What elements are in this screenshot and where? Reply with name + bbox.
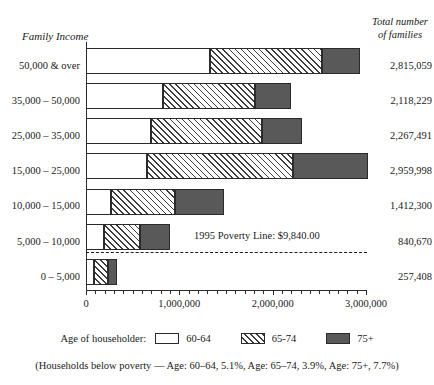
category-label: 15,000 – 25,000 — [0, 165, 80, 176]
poverty-line — [86, 252, 367, 253]
white-box-swatch-icon — [155, 333, 179, 344]
total-value-label: 840,670 — [368, 236, 432, 247]
plot-area: 1995 Poverty Line: $9,840.00 01,000,0002… — [86, 42, 366, 290]
bar-segment-60-64 — [86, 189, 111, 215]
axis-tick-minor — [329, 290, 330, 294]
bar-segment-65-74 — [163, 83, 255, 109]
bar-segment-65-74 — [151, 118, 262, 144]
axis-tick-minor — [301, 290, 302, 294]
axis-tick-minor — [170, 290, 171, 294]
axis-tick-minor — [105, 290, 106, 294]
legend-item-75-plus[interactable]: 75+ — [326, 333, 373, 344]
bar-segment-75plus — [293, 153, 368, 179]
legend-item-60-64[interactable]: 60-64 — [155, 333, 211, 344]
total-column-title: Total number of families — [366, 16, 434, 41]
axis-tick-minor — [319, 290, 320, 294]
bar-row — [86, 189, 218, 215]
axis-tick-major — [273, 290, 274, 295]
axis-tick-minor — [347, 290, 348, 294]
bar-segment-60-64 — [86, 153, 147, 179]
category-label: 25,000 – 35,000 — [0, 130, 80, 141]
legend: Age of householder: 60-64 65-74 75+ — [0, 330, 434, 346]
bar-row — [86, 83, 284, 109]
total-value-label: 1,412,300 — [368, 200, 432, 211]
stacked-bar-chart: Family Income Total number of families 5… — [0, 0, 434, 385]
category-label: 10,000 – 15,000 — [0, 200, 80, 211]
category-label: 35,000 – 50,000 — [0, 95, 80, 106]
legend-item-65-74[interactable]: 65-74 — [241, 333, 297, 344]
total-value-label: 2,959,998 — [368, 165, 432, 176]
axis-tick-minor — [245, 290, 246, 294]
total-value-label: 2,815,059 — [368, 60, 432, 71]
axis-tick-minor — [207, 290, 208, 294]
category-label: 50,000 & over — [0, 60, 80, 71]
axis-tick-minor — [235, 290, 236, 294]
legend-item-label: 65-74 — [272, 333, 297, 344]
axis-tick-minor — [357, 290, 358, 294]
bar-segment-65-74 — [111, 189, 175, 215]
axis-tick-minor — [282, 290, 283, 294]
axis-tick-label: 1,000,000 — [158, 298, 200, 309]
bar-row — [86, 118, 298, 144]
axis-tick-minor — [123, 290, 124, 294]
bar-row — [86, 259, 110, 285]
axis-tick-minor — [151, 290, 152, 294]
axis-tick-major — [86, 290, 87, 295]
axis-tick-minor — [291, 290, 292, 294]
axis-tick-minor — [226, 290, 227, 294]
total-value-label: 2,118,229 — [368, 95, 432, 106]
total-value-label: 257,408 — [368, 271, 432, 282]
bar-segment-65-74 — [104, 224, 140, 250]
axis-tick-minor — [198, 290, 199, 294]
bar-segment-75plus — [140, 224, 170, 250]
bar-segment-60-64 — [86, 259, 94, 285]
axis-tick-minor — [263, 290, 264, 294]
axis-tick-minor — [114, 290, 115, 294]
axis-tick-label: 3,000,000 — [345, 298, 387, 309]
legend-item-label: 60-64 — [186, 333, 211, 344]
axis-tick-minor — [95, 290, 96, 294]
axis-tick-minor — [189, 290, 190, 294]
total-column-title-line1: Total number — [366, 16, 434, 29]
bar-segment-60-64 — [86, 48, 210, 74]
axis-tick-major — [179, 290, 180, 295]
bar-segment-75plus — [255, 83, 291, 109]
dark-box-swatch-icon — [326, 333, 350, 344]
y-axis-title: Family Income — [22, 30, 88, 42]
axis-tick-minor — [338, 290, 339, 294]
bar-segment-75plus — [175, 189, 224, 215]
bar-segment-75plus — [262, 118, 302, 144]
axis-tick-major — [366, 290, 367, 295]
poverty-line-label: 1995 Poverty Line: $9,840.00 — [194, 230, 320, 241]
total-value-label: 2,267,491 — [368, 130, 432, 141]
legend-title: Age of householder: — [60, 333, 146, 344]
bar-segment-65-74 — [210, 48, 322, 74]
axis-tick-minor — [142, 290, 143, 294]
footnote: (Households below poverty — Age: 60–64, … — [0, 360, 434, 371]
category-label: 0 – 5,000 — [0, 271, 80, 282]
bar-segment-60-64 — [86, 83, 163, 109]
bar-row — [86, 48, 349, 74]
hatched-box-swatch-icon — [241, 333, 265, 344]
bar-row — [86, 224, 164, 250]
bar-segment-65-74 — [94, 259, 108, 285]
axis-tick-minor — [217, 290, 218, 294]
total-column-title-line2: of families — [366, 29, 434, 42]
legend-item-label: 75+ — [357, 333, 373, 344]
bar-segment-75plus — [322, 48, 360, 74]
axis-tick-label: 2,000,000 — [252, 298, 294, 309]
category-label: 5,000 – 10,000 — [0, 236, 80, 247]
bar-segment-60-64 — [86, 118, 151, 144]
bar-segment-65-74 — [147, 153, 293, 179]
bar-row — [86, 153, 362, 179]
axis-tick-minor — [161, 290, 162, 294]
bar-segment-75plus — [108, 259, 117, 285]
axis-tick-label: 0 — [83, 298, 88, 309]
axis-tick-minor — [133, 290, 134, 294]
bar-segment-60-64 — [86, 224, 104, 250]
axis-tick-minor — [310, 290, 311, 294]
axis-tick-minor — [254, 290, 255, 294]
